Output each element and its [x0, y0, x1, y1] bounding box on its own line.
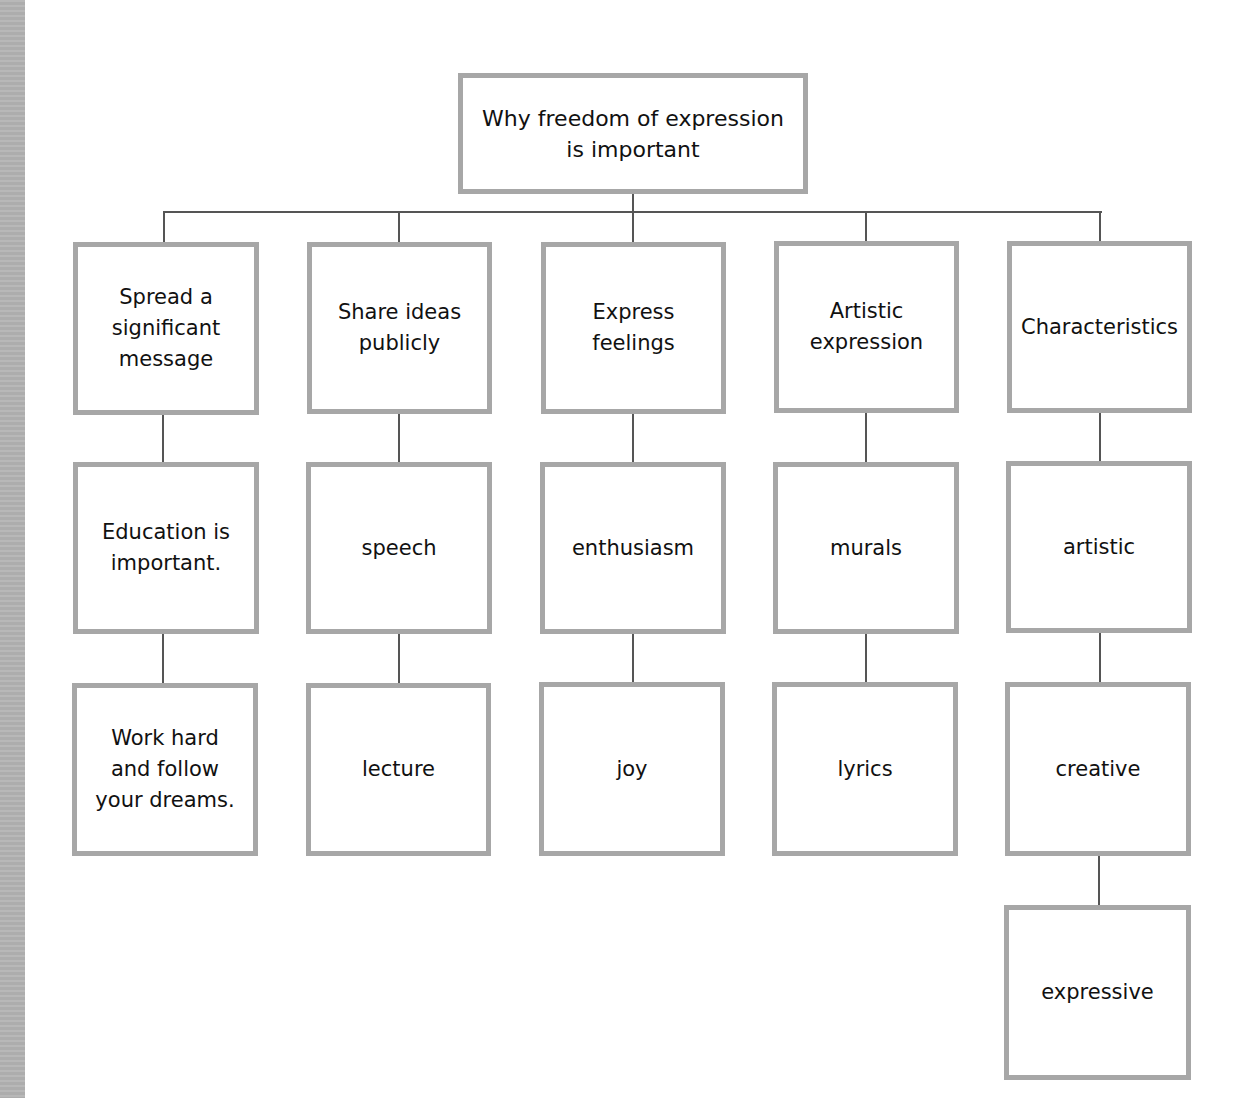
connector-branch-1-child-1	[162, 413, 164, 463]
connector-branch-4-child-1	[865, 413, 867, 463]
connector-branch-3-child-1	[632, 413, 634, 463]
connector-bus-to-branch-1	[163, 212, 165, 243]
child-node: Work hard and follow your dreams.	[72, 683, 258, 856]
child-node: Education is important.	[73, 462, 259, 634]
child-node-label: creative	[1056, 754, 1141, 785]
child-node-label: expressive	[1041, 977, 1153, 1008]
branch-node-share-ideas: Share ideas publicly	[307, 242, 492, 414]
child-node-label: Education is important.	[102, 517, 230, 579]
child-node: lecture	[306, 683, 491, 856]
connector-branch-2-child-1	[398, 413, 400, 463]
branch-node-label: Characteristics	[1021, 312, 1178, 343]
child-node-label: Work hard and follow your dreams.	[95, 723, 234, 816]
child-node: creative	[1005, 682, 1191, 856]
child-node-label: enthusiasm	[572, 533, 694, 564]
left-edge-strip	[0, 0, 25, 1098]
child-node-label: speech	[362, 533, 437, 564]
root-node: Why freedom of expression is important	[458, 73, 808, 194]
connector-bus-to-branch-3	[632, 212, 634, 243]
child-node: lyrics	[772, 682, 958, 856]
child-node-label: joy	[616, 754, 647, 785]
child-node: expressive	[1004, 905, 1191, 1080]
child-node: enthusiasm	[540, 462, 726, 634]
branch-node-label: Spread a significant message	[112, 282, 220, 375]
connector-root-down	[632, 193, 634, 213]
child-node-label: lecture	[362, 754, 435, 785]
branch-node-label: Express feelings	[592, 297, 674, 359]
child-node-label: lyrics	[837, 754, 892, 785]
connector-bus-to-branch-4	[865, 212, 867, 243]
connector-branch-2-child-2	[398, 632, 400, 684]
branch-node-artistic-expression: Artistic expression	[774, 241, 959, 413]
connector-branch-3-child-2	[632, 632, 634, 684]
connector-branch-5-child-3	[1098, 854, 1100, 906]
root-node-label: Why freedom of expression is important	[482, 103, 784, 165]
connector-branch-5-child-2	[1099, 632, 1101, 684]
connector-branch-5-child-1	[1099, 413, 1101, 463]
child-node: speech	[306, 462, 492, 634]
child-node-label: murals	[830, 533, 902, 564]
branch-node-characteristics: Characteristics	[1007, 241, 1192, 413]
child-node-label: artistic	[1063, 532, 1135, 563]
branch-node-label: Share ideas publicly	[338, 297, 461, 359]
connector-branch-1-child-2	[162, 632, 164, 684]
child-node: joy	[539, 682, 725, 856]
branch-node-spread-message: Spread a significant message	[73, 242, 259, 415]
connector-bus-to-branch-5	[1099, 212, 1101, 243]
connector-branch-4-child-2	[865, 632, 867, 684]
child-node: murals	[773, 462, 959, 634]
branch-node-label: Artistic expression	[810, 296, 923, 358]
branch-node-express-feelings: Express feelings	[541, 242, 726, 414]
child-node: artistic	[1006, 461, 1192, 633]
connector-bus-to-branch-2	[398, 212, 400, 243]
